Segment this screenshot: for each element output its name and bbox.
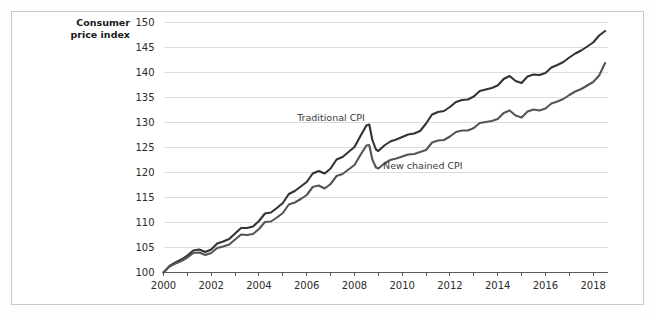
- x-tick-label: 2014: [485, 280, 510, 291]
- y-tick-label: 115: [135, 192, 154, 203]
- y-tick-label: 120: [135, 167, 154, 178]
- y-tick-label: 125: [135, 142, 154, 153]
- x-tick-label: 2018: [580, 280, 605, 291]
- x-tick-label: 2010: [389, 280, 414, 291]
- chart-figure: Consumer price index 1001051101151201251…: [0, 0, 655, 318]
- x-tick-label: 2004: [246, 280, 271, 291]
- data-series: [164, 31, 606, 273]
- y-tick-label: 150: [135, 17, 154, 28]
- line-chart-plot: 100105110115120125130135140145150 200020…: [0, 0, 655, 318]
- y-tick-label: 105: [135, 242, 154, 253]
- x-tick-label: 2006: [294, 280, 319, 291]
- series-line: [164, 31, 606, 273]
- series-annotation-label: New chained CPI: [383, 160, 463, 171]
- x-tick-label: 2002: [199, 280, 224, 291]
- y-tick-label: 140: [135, 67, 154, 78]
- x-axis: 2000200220042006200820102012201420162018: [151, 273, 608, 291]
- y-tick-label: 100: [135, 267, 154, 278]
- y-tick-label: 110: [135, 217, 154, 228]
- y-tick-label: 145: [135, 42, 154, 53]
- y-tick-label: 130: [135, 117, 154, 128]
- x-tick-label: 2000: [151, 280, 176, 291]
- x-tick-label: 2016: [533, 280, 558, 291]
- y-tick-label: 135: [135, 92, 154, 103]
- gridlines: [164, 23, 608, 248]
- x-tick-label: 2012: [437, 280, 462, 291]
- x-tick-label: 2008: [342, 280, 367, 291]
- y-axis-ticks: 100105110115120125130135140145150: [135, 17, 154, 278]
- series-annotation-label: Traditional CPI: [296, 112, 365, 123]
